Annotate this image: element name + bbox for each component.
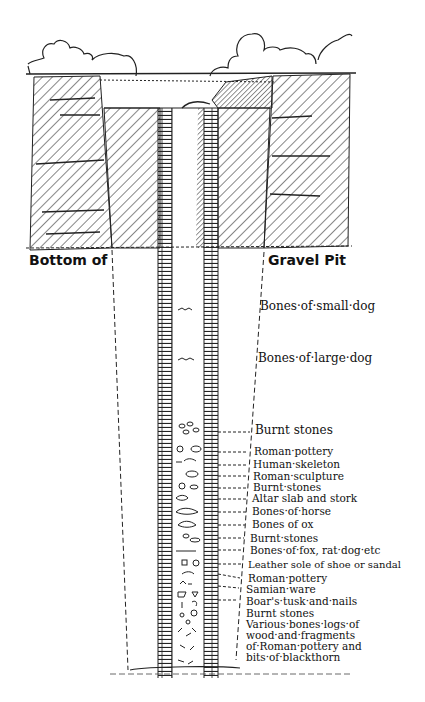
ground-line bbox=[26, 73, 356, 74]
label-small-dog: Bones·of·small·dog bbox=[260, 300, 375, 312]
label-roman-pottery-1: Roman·pottery bbox=[254, 446, 333, 457]
label-various-3: of·Roman·pottery and bbox=[246, 641, 362, 652]
dashed-guide-left bbox=[112, 250, 128, 670]
label-burnt-stones-2: Burnt·stones bbox=[253, 482, 321, 493]
label-roman-sculpture: Roman·sculpture bbox=[253, 471, 344, 482]
label-bones-fox: Bones·of·fox, rat·dog·etc bbox=[250, 545, 380, 556]
label-leaders bbox=[218, 432, 250, 600]
label-burnt-stones-4: Burnt stones bbox=[246, 608, 314, 619]
label-various-4: bits·of·blackthorn bbox=[246, 652, 340, 663]
label-burnt-stones-3: Burnt·stones bbox=[250, 533, 318, 544]
label-samian-ware: Samian·ware bbox=[246, 584, 316, 595]
label-various-2: wood·and·fragments bbox=[246, 630, 355, 641]
trees-right-icon bbox=[210, 34, 352, 76]
label-bones-ox: Bones of ox bbox=[252, 519, 314, 530]
label-human-skeleton: Human·skeleton bbox=[253, 459, 340, 470]
finds-glyphs bbox=[176, 308, 201, 664]
label-various-1: Various·bones·logs·of bbox=[246, 619, 359, 630]
well-wall-right bbox=[204, 108, 218, 678]
label-bottom-of: Bottom of bbox=[29, 253, 107, 267]
gravel-right bbox=[264, 74, 350, 248]
label-gravel-pit: Gravel Pit bbox=[268, 253, 346, 267]
label-altar-slab: Altar slab and stork bbox=[252, 493, 357, 504]
label-burnt-stones-1: Burnt stones bbox=[255, 424, 333, 436]
label-large-dog: Bones·of·large·dog bbox=[258, 352, 372, 364]
label-boars-tusk: Boar's·tusk·and·nails bbox=[246, 596, 357, 607]
label-bones-horse: Bones·of·horse bbox=[252, 506, 331, 517]
label-roman-pottery-2: Roman·pottery bbox=[248, 573, 327, 584]
trees-left-icon bbox=[28, 41, 136, 76]
label-leather-sole: Leather sole of shoe or sandal bbox=[248, 560, 401, 570]
well-wall-left bbox=[158, 108, 172, 678]
